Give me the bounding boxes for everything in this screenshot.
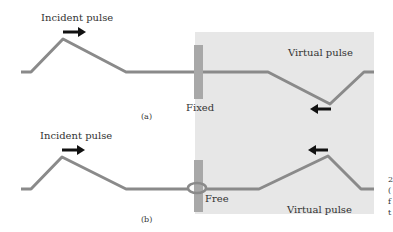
arrow-left-icon-a bbox=[310, 104, 331, 114]
virtual-pulse-label-a: Virtual pulse bbox=[288, 47, 353, 58]
caption-a: (a) bbox=[141, 112, 152, 121]
caption-b: (b) bbox=[141, 215, 152, 224]
incident-pulse-label-b: Incident pulse bbox=[40, 130, 112, 141]
arrow-left-icon-b bbox=[308, 145, 328, 155]
free-label: Free bbox=[205, 193, 229, 204]
string-a-virtual bbox=[203, 72, 374, 104]
string-b-virtual bbox=[206, 156, 374, 189]
side-text-2: ( bbox=[388, 186, 391, 196]
side-text-1: 2 bbox=[388, 175, 393, 185]
string-b-incident bbox=[21, 157, 188, 189]
pulse-diagram bbox=[0, 0, 393, 232]
arrow-right-icon-a bbox=[63, 27, 86, 37]
side-text-3: f bbox=[388, 197, 391, 207]
fixed-wall bbox=[194, 45, 203, 99]
virtual-pulse-label-b: Virtual pulse bbox=[287, 204, 352, 215]
fixed-label: Fixed bbox=[186, 102, 214, 113]
arrow-right-icon-b bbox=[62, 145, 85, 155]
incident-pulse-label-a: Incident pulse bbox=[41, 12, 113, 23]
free-wall bbox=[194, 160, 203, 212]
side-text-4: t bbox=[388, 208, 391, 218]
string-a-incident bbox=[21, 39, 195, 72]
